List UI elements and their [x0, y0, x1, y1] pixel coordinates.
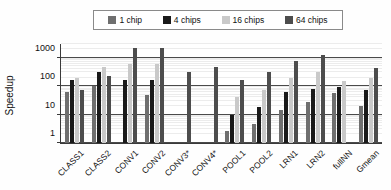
- bar: [289, 78, 293, 143]
- bar: [374, 68, 378, 143]
- bar: [230, 115, 234, 143]
- bar: [369, 78, 373, 144]
- bar-group: [115, 44, 142, 143]
- bar: [80, 90, 84, 143]
- bar: [107, 76, 111, 143]
- bar: [225, 131, 229, 143]
- bar-group: [222, 44, 249, 143]
- y-axis-tick-label: 1: [50, 128, 55, 138]
- plot-area: 1101001000: [60, 44, 382, 144]
- legend-swatch-icon: [163, 16, 171, 24]
- bar: [359, 106, 363, 143]
- bar: [294, 61, 298, 143]
- bar: [155, 64, 159, 143]
- x-axis-label: POOL2: [247, 148, 274, 175]
- bar: [321, 55, 325, 143]
- x-axis-label: LRN2: [304, 148, 326, 170]
- legend-item-label: 64 chips: [296, 16, 328, 25]
- bar-group: [248, 44, 275, 143]
- legend-swatch-icon: [108, 16, 116, 24]
- bar: [145, 95, 149, 143]
- bar-group: [302, 44, 329, 143]
- bar: [133, 48, 137, 143]
- x-axis-label: CLASS1: [56, 148, 86, 178]
- x-axis-label: Gmean: [354, 148, 381, 175]
- bar-group: [61, 44, 88, 143]
- bar: [284, 92, 288, 143]
- speedup-bar-chart: 1 chip4 chips16 chips64 chips Speedup 11…: [0, 0, 391, 190]
- bar: [92, 86, 96, 143]
- bar: [150, 80, 154, 143]
- x-axis-label: fullNN: [331, 148, 354, 171]
- x-axis-label: CLASS2: [83, 148, 113, 178]
- bar: [187, 72, 191, 143]
- y-axis-tick-label: 1000: [35, 43, 55, 53]
- bar: [65, 92, 69, 143]
- bar-group: [88, 44, 115, 143]
- y-axis-tick-label: 100: [40, 71, 55, 81]
- bar: [160, 48, 164, 143]
- bar: [128, 64, 132, 143]
- bar: [123, 80, 127, 143]
- legend-item-4-chips: 4 chips: [163, 16, 201, 25]
- bar: [97, 72, 101, 143]
- legend-item-64-chips: 64 chips: [285, 16, 328, 25]
- bar: [279, 110, 283, 143]
- bar-group: [329, 44, 356, 143]
- bar-group: [355, 44, 382, 143]
- legend-item-16-chips: 16 chips: [222, 16, 265, 25]
- bar-group: [195, 44, 222, 143]
- legend-swatch-icon: [285, 16, 293, 24]
- bar-group: [275, 44, 302, 143]
- bar: [252, 124, 256, 143]
- x-axis-label: CONV3*: [163, 148, 193, 178]
- bar: [332, 93, 336, 143]
- x-axis-label: CONV1: [112, 148, 140, 176]
- bar: [240, 80, 244, 143]
- legend-swatch-icon: [222, 16, 230, 24]
- legend-item-label: 1 chip: [119, 16, 142, 25]
- bar: [70, 80, 74, 144]
- bar: [342, 81, 346, 143]
- y-axis-title: Speedup: [2, 52, 16, 138]
- bar: [306, 102, 310, 143]
- bar: [102, 67, 106, 143]
- bar: [267, 72, 271, 143]
- legend-item-label: 4 chips: [174, 16, 201, 25]
- bar: [364, 90, 368, 143]
- bar: [337, 87, 341, 143]
- bar: [235, 97, 239, 143]
- x-axis-label: CONV4*: [190, 148, 220, 178]
- bar: [257, 107, 261, 143]
- bar: [214, 67, 218, 143]
- bar: [75, 78, 79, 144]
- chart-legend: 1 chip4 chips16 chips64 chips: [93, 10, 343, 30]
- legend-item-1-chip: 1 chip: [108, 16, 142, 25]
- bar-group: [141, 44, 168, 143]
- bar: [262, 90, 266, 143]
- x-axis-labels: CLASS1CLASS2CONV1CONV2CONV3*CONV4*POOL1P…: [60, 144, 382, 190]
- bar: [316, 72, 320, 143]
- x-axis-label: LRN1: [278, 148, 300, 170]
- y-axis-title-text: Speedup: [4, 75, 15, 115]
- bar: [311, 89, 315, 143]
- x-axis-label: POOL1: [220, 148, 247, 175]
- legend-item-label: 16 chips: [233, 16, 265, 25]
- bar-group: [168, 44, 195, 143]
- y-axis-tick-label: 10: [45, 100, 55, 110]
